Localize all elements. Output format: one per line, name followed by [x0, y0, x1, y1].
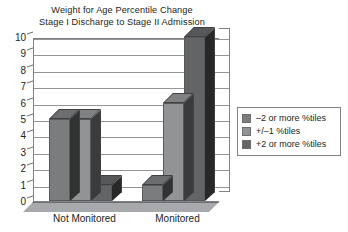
bar-front-face — [142, 185, 163, 201]
y-tick-label: 4 — [4, 131, 26, 141]
gridline-depth — [219, 55, 229, 56]
legend-item-label: +2 or more %tiles — [256, 139, 326, 150]
x-axis: Not MonitoredMonitored — [33, 212, 230, 230]
bar-side-face — [91, 110, 101, 201]
chart-floor — [33, 202, 230, 212]
legend-item: +2 or more %tiles — [242, 138, 335, 151]
bar-side-face — [184, 94, 194, 201]
y-tick-label: 3 — [4, 148, 26, 158]
bar-front-face — [49, 119, 70, 201]
y-tick-label: 9 — [4, 49, 26, 59]
chart-floor-top — [23, 202, 219, 212]
legend-item-label: +/–1 %tiles — [256, 126, 300, 137]
y-tick-label: 2 — [4, 164, 26, 174]
y-axis: 012345678910 — [4, 38, 28, 202]
legend-item: +/–1 %tiles — [242, 125, 335, 138]
y-tick-label: 6 — [4, 99, 26, 109]
legend-item-label: –2 or more %tiles — [256, 113, 326, 124]
plot-depth-column — [219, 28, 230, 192]
legend-swatch-icon — [242, 127, 251, 136]
gridline-depth — [219, 105, 229, 106]
chart-title: Weight for Age Percentile Change Stage I… — [0, 4, 244, 28]
y-tick-mark — [27, 31, 33, 34]
bar — [49, 119, 70, 201]
legend-item: –2 or more %tiles — [242, 112, 335, 125]
chart-legend: –2 or more %tiles+/–1 %tiles+2 or more %… — [237, 107, 341, 156]
gridline-depth — [219, 137, 229, 138]
gridline-depth — [219, 154, 229, 155]
y-tick-label: 5 — [4, 115, 26, 125]
chart-title-line-1: Weight for Age Percentile Change — [0, 4, 244, 16]
bar — [142, 185, 163, 201]
gridline-depth — [219, 39, 229, 40]
x-tick-label: Monitored — [155, 212, 199, 226]
bar-side-face — [70, 110, 80, 201]
y-tick-label: 0 — [4, 197, 26, 207]
legend-swatch-icon — [242, 140, 251, 149]
plot-area — [33, 38, 219, 202]
bar-chart: Weight for Age Percentile Change Stage I… — [0, 0, 348, 232]
y-tick-label: 8 — [4, 66, 26, 76]
y-tick-label: 7 — [4, 82, 26, 92]
y-tick-label: 1 — [4, 181, 26, 191]
bar-side-face — [205, 28, 215, 201]
legend-swatch-icon — [242, 114, 251, 123]
gridline-depth — [219, 121, 229, 122]
x-tick-label: Not Monitored — [53, 212, 116, 226]
gridline-depth — [219, 88, 229, 89]
y-tick-label: 10 — [4, 33, 26, 43]
gridline-depth — [219, 170, 229, 171]
gridline-depth — [219, 187, 229, 188]
gridline-depth — [219, 72, 229, 73]
